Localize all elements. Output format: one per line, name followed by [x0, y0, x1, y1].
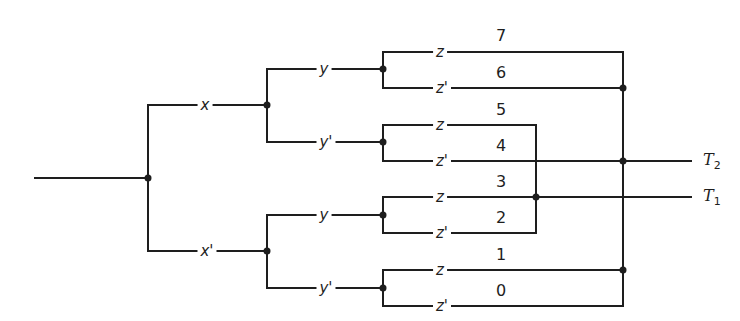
output-t1: T1	[703, 188, 721, 210]
label-z-5: z	[433, 117, 447, 133]
label-z-0: z'	[433, 298, 451, 314]
label-y-bottom: y	[317, 207, 332, 223]
z-branch-3	[383, 197, 536, 215]
xprime-branch	[148, 178, 267, 251]
minterm-3: 3	[496, 174, 506, 190]
label-z-7: z	[433, 44, 447, 60]
minterm-1: 1	[496, 247, 506, 263]
minterm-7: 7	[496, 28, 506, 44]
junction-dot	[380, 66, 387, 73]
junction-dot	[380, 139, 387, 146]
junction-dot	[145, 175, 152, 182]
output-t2: T2	[703, 152, 721, 174]
label-z-2: z'	[433, 225, 451, 241]
label-x: x	[198, 97, 213, 113]
output-t1-sub: 1	[714, 195, 721, 208]
output-t1-letter: T	[703, 186, 714, 205]
tree-network-diagram	[0, 0, 740, 321]
junction-dot	[620, 158, 627, 165]
label-z-6: z'	[433, 80, 451, 96]
x-branch	[148, 105, 267, 178]
junction-dot	[620, 85, 627, 92]
label-yprime-top: y'	[316, 134, 335, 150]
output-t2-letter: T	[703, 150, 714, 169]
minterm-5: 5	[496, 102, 506, 118]
minterm-2: 2	[496, 210, 506, 226]
label-z-4: z'	[433, 153, 451, 169]
junction-dot	[264, 102, 271, 109]
junction-dot	[533, 194, 540, 201]
minterm-4: 4	[496, 138, 506, 154]
label-xprime: x'	[197, 243, 216, 259]
label-yprime-bottom: y'	[316, 280, 335, 296]
label-z-3: z	[433, 189, 447, 205]
output-t2-sub: 2	[714, 159, 721, 172]
z-branch-2	[383, 197, 536, 233]
junction-dot	[380, 285, 387, 292]
label-y-top: y	[317, 61, 332, 77]
label-z-1: z	[433, 262, 447, 278]
junction-dot	[380, 212, 387, 219]
junction-dot	[264, 248, 271, 255]
minterm-0: 0	[496, 283, 506, 299]
junction-dot	[620, 267, 627, 274]
minterm-6: 6	[496, 65, 506, 81]
